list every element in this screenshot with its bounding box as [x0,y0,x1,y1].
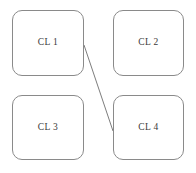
node-cl2-label: CL 2 [138,38,159,48]
node-cl4[interactable]: CL 4 [113,95,184,160]
node-cl3-label: CL 3 [38,123,59,133]
node-cl2[interactable]: CL 2 [113,10,184,76]
node-cl4-label: CL 4 [138,123,159,133]
diagram-canvas: CL 1 CL 2 CL 3 CL 4 [0,0,196,173]
node-cl1-label: CL 1 [38,38,59,48]
node-cl1[interactable]: CL 1 [12,10,84,76]
edge-cl1-to-cl4 [84,45,113,131]
node-cl3[interactable]: CL 3 [12,95,84,160]
